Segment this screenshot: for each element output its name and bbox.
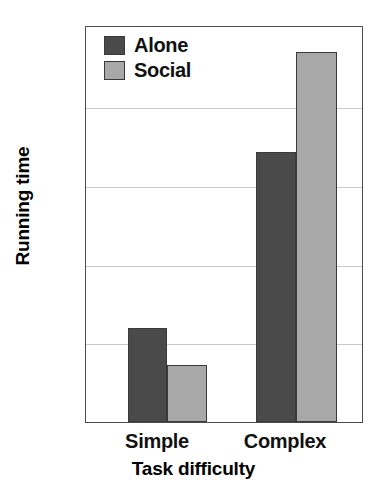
legend-item-alone: Alone [104,35,191,55]
bars-layer [86,27,362,422]
bar-chart: Running time 250 200 150 100 50 0 Alone … [0,0,387,497]
x-axis-title: Task difficulty [0,458,387,480]
bar-simple-social[interactable] [167,365,207,422]
legend-label-social: Social [134,60,191,80]
bar-complex-alone[interactable] [256,152,296,422]
y-axis-title: Running time [12,131,34,281]
legend-swatch-social-icon [104,61,125,80]
legend-label-alone: Alone [134,35,188,55]
legend-item-social: Social [104,60,191,80]
legend: Alone Social [104,35,191,85]
bar-simple-alone[interactable] [128,328,167,422]
bar-complex-social[interactable] [296,52,337,422]
plot-area: Alone Social [85,26,363,423]
x-tick-label-complex: Complex [215,430,355,453]
legend-swatch-alone-icon [104,36,125,55]
x-tick-label-simple: Simple [87,430,227,453]
